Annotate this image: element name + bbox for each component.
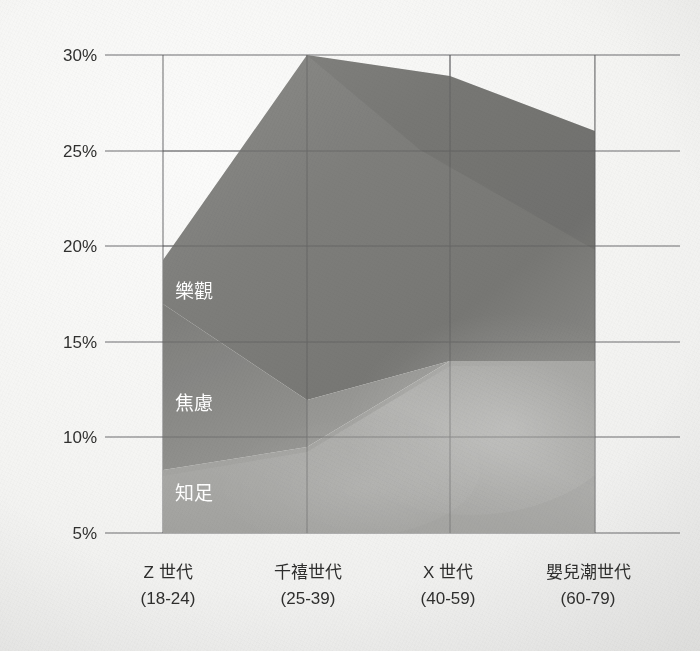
y-tick-label-5: 5% [72, 524, 97, 543]
x-tick-sublabel-2: (40-59) [421, 589, 476, 608]
x-tick-label-2: X 世代 [423, 563, 473, 582]
x-axis-ticks: Z 世代 (18-24) 千禧世代 (25-39) X 世代 (40-59) 嬰… [141, 563, 631, 608]
x-tick-label-3: 嬰兒潮世代 [546, 563, 631, 582]
series-label-anxiety: 焦慮 [175, 393, 213, 414]
series-label-optimism: 樂觀 [175, 281, 213, 302]
series-label-contentment: 知足 [175, 483, 213, 504]
x-tick-label-0: Z 世代 [143, 563, 192, 582]
x-tick-sublabel-1: (25-39) [281, 589, 336, 608]
y-tick-label-20: 20% [63, 237, 97, 256]
y-tick-label-30: 30% [63, 46, 97, 65]
y-tick-label-15: 15% [63, 333, 97, 352]
y-axis-ticks: 30% 25% 20% 15% 10% 5% [63, 46, 97, 543]
x-tick-sublabel-0: (18-24) [141, 589, 196, 608]
stacked-areas [163, 55, 635, 540]
y-tick-label-10: 10% [63, 428, 97, 447]
chart-page: 30% 25% 20% 15% 10% 5% Z 世代 (18-24) 千禧世代… [0, 0, 700, 651]
y-tick-label-25: 25% [63, 142, 97, 161]
x-tick-sublabel-3: (60-79) [561, 589, 616, 608]
generational-sentiment-area-chart: 30% 25% 20% 15% 10% 5% Z 世代 (18-24) 千禧世代… [0, 0, 700, 651]
x-tick-label-1: 千禧世代 [274, 563, 342, 582]
